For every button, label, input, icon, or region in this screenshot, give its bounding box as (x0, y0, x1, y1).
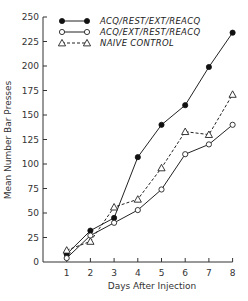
y-tick-label: 50 (28, 208, 40, 218)
x-tick-label: 7 (206, 268, 212, 278)
x-tick-label: 5 (159, 268, 165, 278)
open-circle-marker (206, 142, 211, 147)
y-tick-label: 225 (22, 37, 39, 47)
filled-circle-marker (230, 30, 235, 35)
data-series (63, 30, 236, 261)
legend-item-1: ACQ/REST/EXT/REACQ (59, 16, 200, 26)
y-tick-label: 200 (22, 61, 39, 71)
axes: 025507510012515017520022525012345678 (22, 12, 236, 278)
y-tick-label: 75 (28, 184, 39, 194)
x-tick-label: 4 (135, 268, 141, 278)
x-tick-label: 6 (182, 268, 188, 278)
x-tick-label: 3 (111, 268, 117, 278)
open-circle-marker (135, 207, 140, 212)
open-triangle-marker (87, 238, 94, 244)
legend-label: NAIVE CONTROL (100, 38, 174, 48)
y-tick-label: 125 (22, 135, 39, 145)
filled-circle-marker (88, 228, 93, 233)
open-triangle-marker (182, 128, 189, 134)
y-tick-label: 25 (28, 233, 39, 243)
open-circle-marker (112, 220, 117, 225)
legend-item-3: NAIVE CONTROL (58, 38, 174, 48)
y-axis-label: Mean Number Bar Presses (3, 80, 13, 199)
filled-circle-marker (59, 18, 64, 23)
open-triangle-marker (111, 204, 118, 210)
open-circle-marker (64, 255, 69, 260)
legend-label: ACQ/REST/EXT/REACQ (99, 16, 200, 26)
legend-label: ACQ/EXT/REST/REACQ (99, 27, 200, 37)
open-triangle-marker (158, 164, 165, 170)
filled-circle-marker (206, 64, 211, 69)
y-tick-label: 175 (22, 86, 39, 96)
open-circle-marker (183, 152, 188, 157)
y-tick-label: 100 (22, 159, 39, 169)
filled-circle-marker (159, 122, 164, 127)
filled-circle-marker (183, 103, 188, 108)
legend: ACQ/REST/EXT/REACQACQ/EXT/REST/REACQNAIV… (58, 16, 200, 48)
open-circle-marker (59, 29, 64, 34)
line-chart: 025507510012515017520022525012345678 ACQ… (0, 0, 248, 301)
open-circle-marker (159, 187, 164, 192)
open-triangle-marker (63, 247, 70, 253)
series-line (67, 94, 233, 250)
open-triangle-marker (229, 91, 236, 97)
filled-circle-marker (135, 155, 140, 160)
x-tick-label: 1 (64, 268, 70, 278)
open-circle-marker (230, 122, 235, 127)
legend-item-2: ACQ/EXT/REST/REACQ (59, 27, 200, 37)
x-tick-label: 8 (230, 268, 236, 278)
x-tick-label: 2 (88, 268, 94, 278)
x-axis-label: Days After Injection (108, 281, 196, 291)
y-tick-label: 250 (22, 12, 39, 22)
filled-circle-marker (112, 215, 117, 220)
y-tick-label: 0 (33, 257, 39, 267)
filled-circle-marker (84, 18, 89, 23)
open-circle-marker (84, 29, 89, 34)
y-tick-label: 150 (22, 110, 39, 120)
